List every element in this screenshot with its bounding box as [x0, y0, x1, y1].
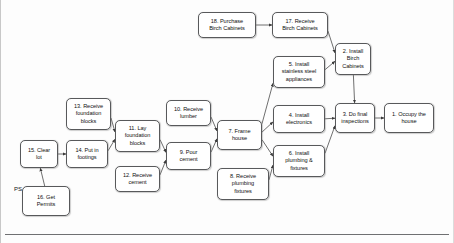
edge-4-to-3 [325, 118, 335, 119]
node-9-pour-cement[interactable]: 9. Pour cement [166, 142, 211, 170]
ps-label: PS [14, 186, 22, 193]
edge-6-to-3 [325, 126, 335, 154]
node-10-receive-lumber[interactable]: 10. Receive lumber [166, 100, 211, 126]
node-18-purchase-birch-cabinets[interactable]: 18. Purchase Birch Cabinets [198, 12, 256, 38]
node-16-get-permits[interactable]: 16. Get Permits [22, 186, 70, 216]
node-3-do-final-inspections[interactable]: 3. Do final inspections [335, 103, 375, 133]
node-8-receive-plumbing-fixtures[interactable]: 8. Receive plumbing fixtures [217, 168, 269, 200]
node-12-receive-cement[interactable]: 12. Receive cement [115, 166, 160, 192]
node-1-occupy-the-house[interactable]: 1. Occupy the house [384, 103, 434, 133]
node-11-lay-foundation-blocks[interactable]: 11. Lay foundation blocks [115, 120, 160, 152]
node-6-install-plumbing-and-fixtures[interactable]: 6. Install plumbing & fixtures [273, 145, 325, 177]
edge-17-to-2 [328, 31, 335, 53]
edge-5-to-2 [325, 61, 335, 69]
edge-7-to-5 [262, 83, 273, 123]
node-2-install-birch-cabinets[interactable]: 2. Install Birch Cabinets [335, 43, 371, 75]
edge-16-to-15 [40, 168, 44, 186]
bottom-divider [5, 234, 449, 235]
node-17-receive-birch-cabinets[interactable]: 17. Receive Birch Cabinets [272, 12, 328, 38]
node-15-clear-lot[interactable]: 15. Clear lot [20, 140, 58, 168]
node-7-frame-house[interactable]: 7. Frame house [217, 120, 262, 150]
node-13-receive-foundation-blocks[interactable]: 13. Receive foundation blocks [66, 98, 111, 130]
edge-7-to-4 [262, 122, 273, 132]
edge-2-to-3 [353, 75, 354, 103]
node-4-install-electronics[interactable]: 4. Install electronics [273, 105, 325, 133]
node-14-put-in-footings[interactable]: 14. Put in footings [66, 140, 108, 168]
diagram-canvas: 18. Purchase Birch Cabinets17. Receive B… [0, 0, 454, 243]
node-5-install-stainless-steel-appliances[interactable]: 5. Install stainless steel appliances [273, 56, 325, 88]
edge-7-to-6 [262, 140, 273, 157]
edge-14-to-11 [108, 139, 115, 151]
